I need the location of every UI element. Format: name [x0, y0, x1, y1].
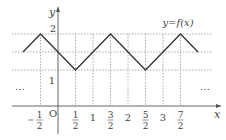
x-tick-denominator: 2 — [37, 121, 43, 131]
x-tick-numerator: 5 — [143, 110, 149, 120]
x-tick-numerator: 7 — [178, 110, 184, 120]
y-axis-label: y — [48, 6, 56, 19]
ellipsis-right: … — [200, 81, 210, 92]
y-axis-arrow-icon — [56, 6, 60, 12]
x-tick-label: 1 — [90, 112, 96, 123]
x-axis-label: x — [214, 108, 221, 121]
y-tick-label: 2 — [50, 23, 56, 34]
graph-canvas: yxOy=f(x)21……1212132252372 — [0, 0, 226, 140]
x-tick-denominator: 2 — [143, 121, 149, 131]
origin-label: O — [49, 108, 57, 119]
function-label: y=f(x) — [161, 17, 193, 28]
x-tick-denominator: 2 — [108, 121, 114, 131]
x-tick-label: 3 — [160, 112, 166, 123]
x-tick-denominator: 2 — [178, 121, 184, 131]
function-graph: yxOy=f(x)21……1212132252372 — [0, 0, 226, 140]
x-tick-denominator: 2 — [73, 121, 79, 131]
x-tick-label: 2 — [125, 112, 131, 123]
x-tick-numerator: 3 — [108, 110, 114, 120]
ellipsis-left: … — [15, 81, 25, 92]
x-tick-numerator: 1 — [73, 110, 79, 120]
y-tick-label: 1 — [49, 75, 55, 86]
x-tick-numerator: 1 — [37, 110, 43, 120]
